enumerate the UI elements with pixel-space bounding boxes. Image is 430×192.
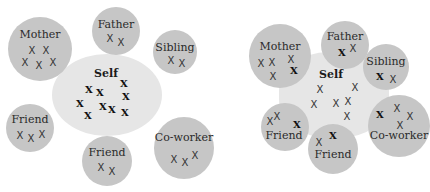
sibling-label: Sibling bbox=[366, 55, 405, 68]
x-mark: X bbox=[394, 104, 401, 114]
left-diagram: Mother Father Sibling Friend Friend Co-w… bbox=[0, 0, 211, 192]
x-mark: X bbox=[352, 83, 359, 93]
father-circle bbox=[321, 21, 369, 69]
self-label: Self bbox=[94, 67, 118, 80]
x-mark: X bbox=[109, 167, 116, 177]
x-mark: X bbox=[28, 134, 35, 144]
x-mark: X bbox=[333, 99, 340, 109]
x-mark-self: X bbox=[99, 102, 107, 112]
x-mark-self: X bbox=[293, 120, 301, 130]
friend-label-bottom: Friend bbox=[314, 148, 351, 161]
x-mark: X bbox=[43, 46, 50, 56]
x-mark-self: X bbox=[76, 99, 84, 109]
mother-circle bbox=[8, 17, 72, 81]
x-mark-self: X bbox=[376, 110, 384, 120]
x-mark: X bbox=[311, 100, 318, 110]
x-mark: X bbox=[179, 59, 186, 69]
x-mark-self: X bbox=[121, 108, 129, 118]
father-label: Father bbox=[98, 18, 135, 31]
x-mark: X bbox=[269, 58, 276, 68]
x-mark-self: X bbox=[338, 48, 346, 58]
coworker-circle bbox=[154, 117, 214, 179]
x-mark: X bbox=[107, 34, 114, 44]
coworker-label: Co-worker bbox=[155, 131, 214, 144]
x-mark-self: X bbox=[85, 85, 93, 95]
x-mark: X bbox=[258, 59, 265, 69]
x-mark: X bbox=[22, 58, 29, 68]
sibling-label: Sibling bbox=[155, 41, 194, 54]
friend-circle-left bbox=[6, 104, 54, 152]
x-mark: X bbox=[29, 46, 36, 56]
x-mark: X bbox=[270, 72, 277, 82]
mother-label: Mother bbox=[259, 40, 300, 53]
x-mark: X bbox=[171, 155, 178, 165]
x-mark: X bbox=[317, 85, 324, 95]
x-mark: X bbox=[98, 163, 105, 173]
friend-label-left: Friend bbox=[11, 113, 48, 126]
x-mark-self: X bbox=[84, 111, 92, 121]
x-mark: X bbox=[39, 130, 46, 140]
x-mark: X bbox=[36, 61, 43, 71]
mother-label: Mother bbox=[19, 28, 60, 41]
friend-label-left: Friend bbox=[265, 129, 302, 142]
self-label: Self bbox=[319, 68, 343, 81]
x-mark: X bbox=[50, 58, 57, 68]
friend-label-bottom: Friend bbox=[88, 146, 125, 159]
mother-circle bbox=[249, 24, 311, 88]
father-label: Father bbox=[327, 30, 364, 43]
x-mark: X bbox=[345, 97, 352, 107]
x-mark-self: X bbox=[96, 88, 104, 98]
x-mark-self: X bbox=[122, 92, 130, 102]
x-mark: X bbox=[397, 121, 404, 131]
friend-circle-bottom bbox=[82, 136, 132, 186]
x-mark-self: X bbox=[329, 131, 337, 141]
x-mark-self: X bbox=[108, 105, 116, 115]
x-mark: X bbox=[118, 38, 125, 48]
right-diagram: Mother Father Sibling Friend Friend Co-w… bbox=[211, 0, 422, 192]
x-mark: X bbox=[17, 131, 24, 141]
x-mark: X bbox=[407, 112, 414, 122]
x-mark: X bbox=[344, 112, 351, 122]
x-mark: X bbox=[350, 44, 357, 54]
x-mark: X bbox=[288, 55, 295, 65]
x-mark-self: X bbox=[290, 66, 298, 76]
x-mark: X bbox=[182, 158, 189, 168]
x-mark: X bbox=[267, 117, 274, 127]
father-circle bbox=[92, 7, 140, 55]
x-mark: X bbox=[274, 112, 281, 122]
x-mark-self: X bbox=[376, 72, 384, 82]
x-mark: X bbox=[316, 138, 323, 148]
x-mark: X bbox=[168, 56, 175, 66]
x-mark: X bbox=[390, 75, 397, 85]
x-mark-self: X bbox=[120, 79, 128, 89]
friend-circle-left bbox=[261, 103, 309, 151]
x-mark: X bbox=[192, 151, 199, 161]
